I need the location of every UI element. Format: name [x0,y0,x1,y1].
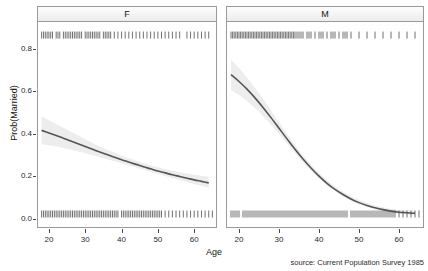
source-caption: source: Current Population Survey 1985 [291,258,424,267]
x-tick-label: 50 [148,235,168,244]
panel-f [37,22,217,228]
y-tick-label: 0.8 [6,44,32,53]
y-tick-mark [33,219,36,220]
facet-strip-f: F [37,6,217,22]
x-tick-mark [399,229,400,233]
x-tick-mark [49,229,50,233]
panel-m-plot [227,22,423,226]
y-axis-label: Prob(Married) [9,73,19,153]
panel-f-plot [38,22,216,226]
facet-strip-f-label: F [124,9,130,19]
y-tick-label: 0.2 [6,171,32,180]
x-tick-label: 60 [184,235,204,244]
x-tick-mark [158,229,159,233]
x-tick-label: 20 [229,235,249,244]
rug-top [42,32,209,39]
x-axis-label: Age [0,247,428,257]
x-tick-mark [85,229,86,233]
y-tick-mark [33,49,36,50]
confidence-band [231,60,415,215]
y-tick-mark [33,91,36,92]
x-tick-label: 40 [309,235,329,244]
rug-bottom [42,211,213,218]
x-tick-label: 60 [389,235,409,244]
x-tick-label: 40 [112,235,132,244]
y-tick-label: 0.0 [6,214,32,223]
x-tick-mark [279,229,280,233]
x-tick-mark [319,229,320,233]
x-tick-label: 30 [75,235,95,244]
facet-strip-m: M [226,6,424,22]
y-tick-mark [33,134,36,135]
facet-strip-m-label: M [321,9,329,19]
rug-bottom [231,211,419,218]
x-tick-label: 20 [39,235,59,244]
x-tick-label: 30 [269,235,289,244]
x-tick-mark [194,229,195,233]
chart-figure: F M 0.00.20.40.60.8 20203030404050506060… [0,0,428,271]
x-tick-mark [122,229,123,233]
x-tick-mark [359,229,360,233]
rug-top [231,32,415,39]
panel-m [226,22,424,228]
x-tick-label: 50 [349,235,369,244]
x-tick-mark [239,229,240,233]
y-tick-mark [33,176,36,177]
